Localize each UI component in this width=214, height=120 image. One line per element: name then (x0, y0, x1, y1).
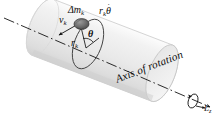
tangential-speed-label: rkθ˙ (99, 6, 111, 18)
radius-label: rk (71, 38, 78, 50)
angle-label: θ (88, 29, 93, 39)
angular-momentum-label: Lz (204, 104, 211, 114)
velocity-label: vk (59, 15, 66, 27)
theta-dot-accent: ˙ (107, 3, 110, 12)
mass-element-label: Δmk (68, 5, 84, 17)
physics-figure: Δmk rkθ˙ vk θ rk Axis of rotation Lz (0, 0, 214, 120)
mass-element-blob (74, 19, 89, 30)
